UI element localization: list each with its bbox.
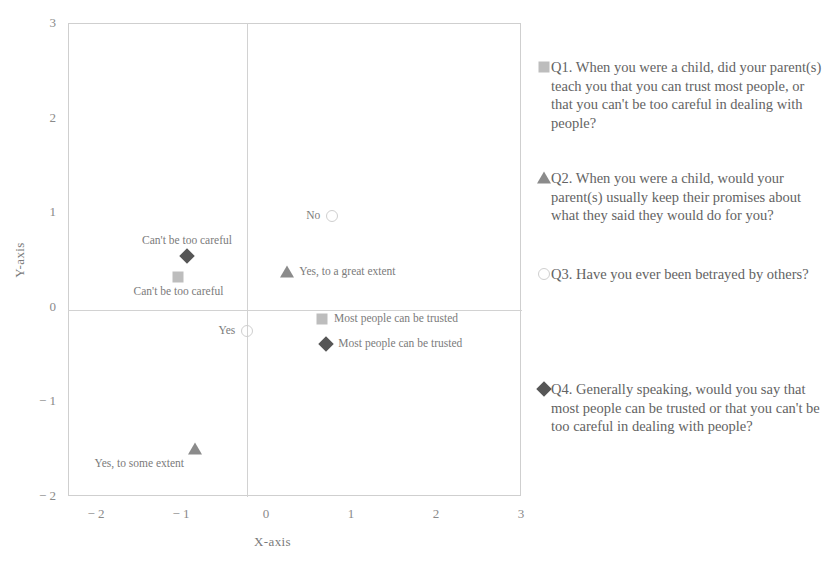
y-tick-label: 1 — [30, 204, 56, 220]
square-marker-icon — [317, 314, 328, 325]
data-point-label: No — [306, 210, 320, 222]
x-tick-label: 0 — [263, 506, 270, 522]
data-point-label: Yes, to a great extent — [299, 266, 395, 278]
data-point-label: Yes, to some extent — [94, 458, 184, 470]
legend-item-q4[interactable]: Q4. Generally speaking, would you say th… — [537, 380, 824, 436]
x-tick-label: − 2 — [88, 506, 105, 522]
circle-marker-icon — [537, 265, 550, 283]
data-point-label: Most people can be trusted — [338, 338, 462, 350]
legend-item-q2[interactable]: Q2. When you were a child, would your pa… — [537, 169, 824, 225]
legend-item-q3-label: Q3. Have you ever been betrayed by other… — [551, 265, 824, 284]
y-tick-label: 0 — [30, 299, 56, 315]
plot-frame — [68, 23, 521, 496]
legend-item-q1[interactable]: Q1. When you were a child, did your pare… — [537, 58, 824, 132]
circle-marker-icon — [241, 325, 253, 337]
square-marker-icon — [173, 272, 184, 283]
y-tick-label: − 1 — [30, 393, 56, 409]
legend-item-q1-label: Q1. When you were a child, did your pare… — [551, 58, 824, 132]
data-point-label: Can't be too careful — [142, 234, 232, 246]
data-point-label: Can't be too careful — [134, 286, 224, 298]
x-axis-title: X-axis — [0, 534, 545, 550]
y-tick-label: − 2 — [30, 488, 56, 504]
triangle-marker-icon — [537, 169, 550, 187]
y-tick-label: 2 — [30, 110, 56, 126]
diamond-marker-icon — [537, 380, 550, 398]
triangle-marker-icon — [188, 442, 202, 454]
x-tick-label: 1 — [348, 506, 355, 522]
x-tick-label: 3 — [518, 506, 525, 522]
y-axis-title: Y-axis — [12, 220, 28, 300]
x-tick-label: − 1 — [172, 506, 189, 522]
legend-item-q2-label: Q2. When you were a child, would your pa… — [551, 169, 824, 225]
x-zero-axis-line — [68, 310, 522, 311]
legend-item-q4-label: Q4. Generally speaking, would you say th… — [551, 380, 824, 436]
x-tick-label: 2 — [433, 506, 440, 522]
square-marker-icon — [537, 58, 550, 76]
circle-marker-icon — [326, 210, 338, 222]
triangle-marker-icon — [280, 265, 294, 277]
data-point-label: Yes — [219, 326, 236, 338]
legend-item-q3[interactable]: Q3. Have you ever been betrayed by other… — [537, 265, 824, 284]
scatter-chart: − 2− 10123 3210− 1− 2 Can't be too caref… — [0, 0, 545, 566]
y-zero-axis-line — [247, 23, 248, 497]
data-point-label: Most people can be trusted — [334, 313, 458, 325]
y-tick-label: 3 — [30, 15, 56, 31]
